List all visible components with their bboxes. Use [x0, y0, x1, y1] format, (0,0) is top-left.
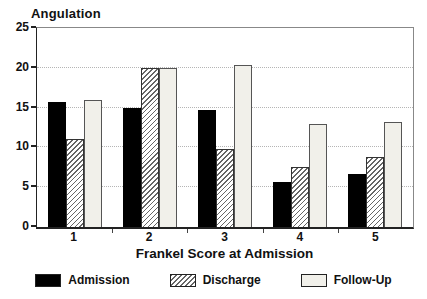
- y-tick-label-15: 15: [0, 100, 29, 114]
- y-tick-mark-25: [31, 26, 36, 28]
- bar-group-3: [187, 28, 262, 227]
- legend-label: Admission: [68, 273, 129, 287]
- bar-followup-1: [84, 100, 102, 227]
- x-category-label-3: 3: [187, 230, 262, 244]
- y-tick-mark-15: [31, 106, 36, 108]
- legend: AdmissionDischargeFollow-Up: [0, 273, 427, 287]
- y-tick-label-25: 25: [0, 20, 29, 34]
- chart-title: Angulation: [31, 6, 101, 21]
- plot-area: [36, 27, 414, 229]
- legend-swatch-light: [301, 274, 327, 287]
- bar-followup-5: [384, 122, 402, 227]
- y-tick-mark-5: [31, 185, 36, 187]
- x-category-label-4: 4: [262, 230, 337, 244]
- x-axis-title: Frankel Score at Admission: [36, 246, 413, 261]
- bar-groups-container: [37, 28, 413, 227]
- y-tick-mark-0: [31, 225, 36, 227]
- bar-group-1: [37, 28, 112, 227]
- bar-admission-2: [123, 108, 141, 227]
- bar-discharge-3: [216, 149, 234, 227]
- legend-label: Discharge: [203, 273, 261, 287]
- bar-followup-4: [309, 124, 327, 227]
- legend-swatch-hatch: [170, 274, 196, 287]
- bar-admission-4: [273, 182, 291, 227]
- legend-swatch-solid: [35, 274, 61, 287]
- legend-label: Follow-Up: [334, 273, 392, 287]
- y-tick-mark-20: [31, 66, 36, 68]
- bar-discharge-5: [366, 157, 384, 227]
- legend-item-followup: Follow-Up: [301, 273, 392, 287]
- bar-discharge-2: [141, 68, 159, 227]
- bar-followup-2: [159, 68, 177, 227]
- y-tick-label-20: 20: [0, 60, 29, 74]
- bar-group-2: [112, 28, 187, 227]
- legend-item-admission: Admission: [35, 273, 129, 287]
- bar-discharge-1: [66, 139, 84, 227]
- y-tick-label-5: 5: [0, 179, 29, 193]
- bar-group-5: [338, 28, 413, 227]
- x-category-label-2: 2: [111, 230, 186, 244]
- legend-item-discharge: Discharge: [170, 273, 261, 287]
- x-category-label-1: 1: [36, 230, 111, 244]
- bar-group-4: [263, 28, 338, 227]
- y-tick-label-0: 0: [0, 219, 29, 233]
- chart-figure: Angulation 0510152025 12345 Frankel Scor…: [0, 0, 427, 299]
- y-tick-mark-10: [31, 145, 36, 147]
- bar-admission-5: [348, 174, 366, 227]
- x-category-label-5: 5: [338, 230, 413, 244]
- bar-admission-1: [48, 102, 66, 227]
- x-axis-labels: 12345: [36, 230, 413, 244]
- bar-discharge-4: [291, 167, 309, 227]
- bar-followup-3: [234, 65, 252, 227]
- y-tick-label-10: 10: [0, 139, 29, 153]
- bar-admission-3: [198, 110, 216, 227]
